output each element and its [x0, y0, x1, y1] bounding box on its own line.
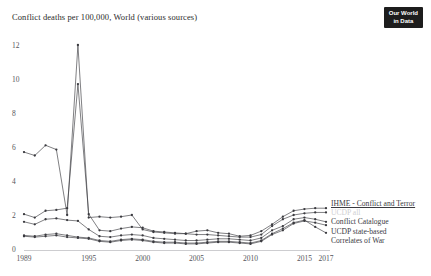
chart-legend: IHME - Conflict and TerrorUCDP allConfli…	[331, 199, 415, 245]
series-point	[195, 242, 197, 244]
series-point	[249, 242, 251, 244]
series-point	[98, 239, 100, 241]
series-point	[34, 223, 36, 225]
series-point	[249, 239, 251, 241]
series-point	[228, 235, 230, 237]
y-axis-tick-label: 2	[12, 211, 16, 220]
series-point	[44, 144, 46, 146]
series-point	[260, 237, 262, 239]
series-point	[228, 233, 230, 235]
series-point	[185, 242, 187, 244]
x-axis-tick-label: 1995	[81, 254, 96, 263]
series-point	[66, 214, 68, 216]
series-point	[228, 240, 230, 242]
series-point	[34, 154, 36, 156]
x-axis-tick-label: 1989	[17, 254, 32, 263]
series-point	[34, 235, 36, 237]
series-point	[44, 233, 46, 235]
series-point	[185, 233, 187, 235]
series-point	[239, 239, 241, 241]
series-point	[292, 218, 294, 220]
series-point	[55, 148, 57, 150]
series-point	[282, 218, 284, 220]
series-point	[34, 216, 36, 218]
series-point	[109, 240, 111, 242]
series-point	[303, 212, 305, 214]
series-point	[185, 239, 187, 241]
y-axis-tick-label: 0	[12, 245, 16, 254]
series-point	[195, 230, 197, 232]
series-point	[131, 238, 133, 240]
series-point	[77, 44, 79, 46]
legend-item[interactable]: Correlates of War	[331, 236, 415, 245]
series-point	[131, 214, 133, 216]
series-point	[260, 230, 262, 232]
series-point	[282, 216, 284, 218]
series-point	[109, 230, 111, 232]
series-point	[325, 224, 327, 226]
series-point	[141, 228, 143, 230]
series-point	[88, 216, 90, 218]
series-point	[271, 229, 273, 231]
y-axis-tick-label: 6	[12, 143, 16, 152]
series-point	[77, 220, 79, 222]
y-axis-tick-label: 12	[12, 41, 20, 50]
series-point	[217, 234, 219, 236]
legend-item[interactable]: Conflict Catalogue	[331, 217, 415, 226]
series-point	[98, 216, 100, 218]
series-point	[77, 236, 79, 238]
series-point	[44, 218, 46, 220]
series-point	[325, 232, 327, 234]
legend-item[interactable]: IHME - Conflict and Terror	[331, 199, 415, 208]
series-point	[303, 219, 305, 221]
x-axis-tick-label: 2017	[319, 254, 334, 263]
series-point	[109, 216, 111, 218]
series-point	[109, 236, 111, 238]
series-point	[174, 239, 176, 241]
series-point	[206, 233, 208, 235]
series-point	[314, 222, 316, 224]
series-point	[249, 234, 251, 236]
series-point	[174, 241, 176, 243]
series-point	[163, 241, 165, 243]
series-point	[325, 211, 327, 213]
legend-item[interactable]: UCDP state-based	[331, 227, 415, 236]
series-point	[23, 234, 25, 236]
series-point	[131, 233, 133, 235]
series-point	[282, 225, 284, 227]
series-point	[163, 238, 165, 240]
x-axis-tick-label: 2015	[297, 254, 312, 263]
series-point	[325, 207, 327, 209]
series-point	[260, 233, 262, 235]
series-point	[217, 232, 219, 234]
series-point	[44, 210, 46, 212]
x-axis-tick-label: 2010	[243, 254, 258, 263]
y-axis-tick-label: 4	[12, 177, 16, 186]
series-point	[88, 228, 90, 230]
series-point	[195, 233, 197, 235]
series-point	[282, 227, 284, 229]
series-point	[163, 232, 165, 234]
legend-item[interactable]: UCDP all	[331, 208, 415, 217]
series-point	[260, 239, 262, 241]
series-point	[141, 234, 143, 236]
series-point	[55, 209, 57, 211]
series-point	[303, 216, 305, 218]
series-point	[206, 239, 208, 241]
series-point	[325, 221, 327, 223]
series-point	[98, 235, 100, 237]
series-point	[55, 233, 57, 235]
series-point	[55, 217, 57, 219]
series-line	[24, 84, 326, 237]
series-point	[77, 83, 79, 85]
series-point	[195, 239, 197, 241]
series-point	[314, 211, 316, 213]
series-point	[98, 229, 100, 231]
series-point	[228, 238, 230, 240]
x-axis-tick-label: 2005	[189, 254, 204, 263]
series-point	[23, 213, 25, 215]
x-axis-tick-label: 2000	[135, 254, 150, 263]
series-point	[206, 229, 208, 231]
series-point	[88, 237, 90, 239]
series-point	[271, 233, 273, 235]
